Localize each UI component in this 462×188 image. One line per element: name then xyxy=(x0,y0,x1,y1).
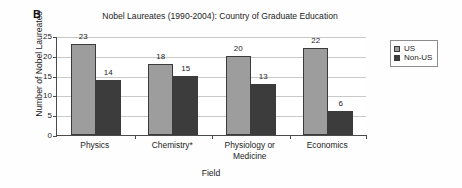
bar-us[interactable]: 23 xyxy=(71,44,96,135)
x-category-label-line: Physics xyxy=(56,140,134,151)
bar-group: 2314 xyxy=(57,37,135,135)
x-category-label-line: Medicine xyxy=(211,151,289,162)
bar-value-label: 23 xyxy=(79,33,88,41)
bar-group: 2013 xyxy=(212,37,290,135)
bar-us[interactable]: 22 xyxy=(303,48,328,135)
legend-swatch-icon xyxy=(394,46,400,52)
bar-group: 226 xyxy=(290,37,368,135)
bar-non-us[interactable]: 13 xyxy=(251,84,276,135)
x-tick-mark xyxy=(212,135,213,139)
x-tick-mark xyxy=(290,135,291,139)
legend-label: US xyxy=(404,45,415,53)
y-tick-label: 5 xyxy=(30,112,52,120)
bar-value-label: 6 xyxy=(339,100,343,108)
y-tick-label: 0 xyxy=(30,132,52,140)
bar-value-label: 15 xyxy=(181,65,190,73)
bar-value-label: 14 xyxy=(104,69,113,77)
x-category-label: Chemistry* xyxy=(134,140,212,151)
x-category-label: Physics xyxy=(56,140,134,151)
bar-non-us[interactable]: 15 xyxy=(173,76,198,135)
plot-area: 231418152013226 xyxy=(56,37,366,136)
legend-item[interactable]: Non-US xyxy=(394,54,432,62)
y-tick-label: 10 xyxy=(30,92,52,100)
y-tick-label: 20 xyxy=(30,53,52,61)
x-tick-mark xyxy=(135,135,136,139)
x-tick-mark xyxy=(366,135,367,139)
bar-value-label: 20 xyxy=(234,45,243,53)
y-tick-mark xyxy=(53,136,57,137)
chart-title: Nobel Laureates (1990-2004): Country of … xyxy=(60,11,380,21)
bar-value-label: 18 xyxy=(156,53,165,61)
legend-item[interactable]: US xyxy=(394,45,432,53)
legend-label: Non-US xyxy=(404,54,432,62)
bar-non-us[interactable]: 6 xyxy=(328,111,353,135)
x-axis-title: Field xyxy=(56,168,366,178)
bar-value-label: 22 xyxy=(311,37,320,45)
bar-group: 1815 xyxy=(135,37,213,135)
x-category-label-line: Chemistry* xyxy=(134,140,212,151)
x-axis-category-labels: PhysicsChemistry*Physiology orMedicineEc… xyxy=(56,140,366,166)
y-axis-tick-labels: 0510152025 xyxy=(28,37,52,136)
bar-us[interactable]: 20 xyxy=(226,56,251,135)
x-category-label: Physiology orMedicine xyxy=(211,140,289,161)
bar-series-container: 231418152013226 xyxy=(57,37,366,135)
x-category-label: Economics xyxy=(289,140,367,151)
y-tick-label: 15 xyxy=(30,73,52,81)
figure-panel-b: B Nobel Laureates (1990-2004): Country o… xyxy=(0,0,462,188)
bar-value-label: 13 xyxy=(259,73,268,81)
bar-non-us[interactable]: 14 xyxy=(96,80,121,135)
legend: USNon-US xyxy=(390,40,438,67)
x-category-label-line: Physiology or xyxy=(211,140,289,151)
y-tick-label: 25 xyxy=(30,33,52,41)
x-category-label-line: Economics xyxy=(289,140,367,151)
legend-swatch-icon xyxy=(394,55,400,61)
bar-us[interactable]: 18 xyxy=(148,64,173,135)
